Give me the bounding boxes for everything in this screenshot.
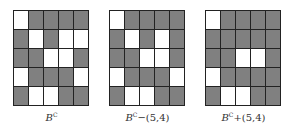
gray-cell bbox=[59, 87, 73, 105]
white-cell bbox=[29, 30, 43, 48]
label-superscript: C bbox=[53, 111, 58, 118]
gray-cell bbox=[266, 49, 280, 67]
gray-cell bbox=[59, 68, 73, 86]
white-cell bbox=[14, 11, 28, 29]
gray-cell bbox=[206, 49, 220, 67]
white-cell bbox=[155, 49, 169, 67]
gray-cell bbox=[221, 68, 235, 86]
gray-cell bbox=[206, 87, 220, 105]
gray-cell bbox=[44, 68, 58, 86]
white-cell bbox=[155, 30, 169, 48]
white-cell bbox=[74, 30, 88, 48]
panel-bc-plus: BC+(5,4) bbox=[205, 10, 282, 123]
gray-cell bbox=[140, 11, 154, 29]
white-cell bbox=[125, 87, 139, 105]
gray-cell bbox=[74, 87, 88, 105]
gray-cell bbox=[170, 87, 184, 105]
gray-cell bbox=[206, 30, 220, 48]
white-cell bbox=[44, 49, 58, 67]
gray-cell bbox=[140, 68, 154, 86]
gray-cell bbox=[170, 11, 184, 29]
gray-cell bbox=[251, 68, 265, 86]
white-cell bbox=[206, 11, 220, 29]
panel-bc: BC bbox=[13, 10, 90, 123]
white-cell bbox=[44, 87, 58, 105]
panel-label: BC bbox=[13, 111, 90, 123]
gray-cell bbox=[155, 11, 169, 29]
label-operation: −(5,4) bbox=[137, 112, 169, 123]
gray-cell bbox=[266, 68, 280, 86]
gray-cell bbox=[14, 87, 28, 105]
gray-cell bbox=[125, 11, 139, 29]
gray-cell bbox=[29, 49, 43, 67]
gray-cell bbox=[29, 68, 43, 86]
gray-cell bbox=[59, 11, 73, 29]
white-cell bbox=[206, 68, 220, 86]
gray-cell bbox=[221, 49, 235, 67]
gray-cell bbox=[236, 68, 250, 86]
label-base: B bbox=[125, 112, 132, 123]
gray-cell bbox=[44, 30, 58, 48]
gray-cell bbox=[221, 30, 235, 48]
white-cell bbox=[236, 87, 250, 105]
gray-cell bbox=[266, 87, 280, 105]
panel-label: BC+(5,4) bbox=[205, 111, 282, 123]
white-cell bbox=[59, 30, 73, 48]
binary-grid bbox=[205, 10, 281, 106]
gray-cell bbox=[236, 11, 250, 29]
gray-cell bbox=[251, 11, 265, 29]
gray-cell bbox=[170, 49, 184, 67]
label-operation: +(5,4) bbox=[233, 112, 265, 123]
gray-cell bbox=[110, 87, 124, 105]
gray-cell bbox=[155, 68, 169, 86]
gray-cell bbox=[74, 49, 88, 67]
gray-cell bbox=[110, 49, 124, 67]
panel-label: BC−(5,4) bbox=[109, 111, 186, 123]
white-cell bbox=[14, 68, 28, 86]
gray-cell bbox=[251, 87, 265, 105]
gray-cell bbox=[14, 49, 28, 67]
white-cell bbox=[140, 49, 154, 67]
gray-cell bbox=[125, 68, 139, 86]
white-cell bbox=[110, 11, 124, 29]
white-cell bbox=[29, 87, 43, 105]
white-cell bbox=[125, 30, 139, 48]
white-cell bbox=[221, 87, 235, 105]
gray-cell bbox=[155, 87, 169, 105]
gray-cell bbox=[140, 30, 154, 48]
gray-cell bbox=[110, 30, 124, 48]
white-cell bbox=[236, 49, 250, 67]
binary-grid bbox=[13, 10, 89, 106]
gray-cell bbox=[125, 49, 139, 67]
binary-grid bbox=[109, 10, 185, 106]
white-cell bbox=[74, 68, 88, 86]
gray-cell bbox=[44, 11, 58, 29]
panel-bc-minus: BC−(5,4) bbox=[109, 10, 186, 123]
label-base: B bbox=[46, 112, 53, 123]
gray-cell bbox=[74, 11, 88, 29]
gray-cell bbox=[29, 11, 43, 29]
label-base: B bbox=[221, 112, 228, 123]
gray-cell bbox=[251, 30, 265, 48]
gray-cell bbox=[266, 30, 280, 48]
gray-cell bbox=[221, 11, 235, 29]
white-cell bbox=[110, 68, 124, 86]
gray-cell bbox=[170, 30, 184, 48]
white-cell bbox=[170, 68, 184, 86]
white-cell bbox=[59, 49, 73, 67]
gray-cell bbox=[14, 30, 28, 48]
white-cell bbox=[251, 49, 265, 67]
gray-cell bbox=[236, 30, 250, 48]
white-cell bbox=[140, 87, 154, 105]
gray-cell bbox=[266, 11, 280, 29]
